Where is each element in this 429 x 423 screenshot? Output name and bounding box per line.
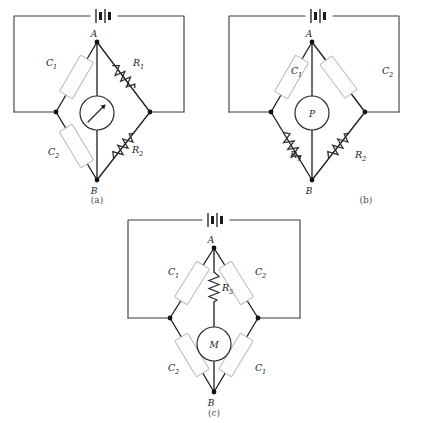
svg-text:2: 2 bbox=[388, 71, 393, 79]
panel-c-node-a-label: A bbox=[207, 235, 215, 245]
panel-a-capacitor-upper-left bbox=[60, 55, 94, 99]
panel-c-label-lower-left: C 2 bbox=[168, 362, 179, 376]
panel-c-bridge-wires bbox=[128, 248, 300, 392]
svg-text:5: 5 bbox=[229, 288, 233, 296]
svg-text:R: R bbox=[131, 144, 139, 155]
panel-a-battery bbox=[96, 9, 110, 23]
panel-b-meter-label: P bbox=[308, 109, 316, 119]
panel-c-label-lower-right: C 1 bbox=[255, 362, 266, 376]
panel-a-node-a-label: A bbox=[90, 29, 98, 39]
panel-c-battery bbox=[208, 213, 222, 227]
panel-c-label-upper-right: C 2 bbox=[255, 266, 266, 280]
panel-a-capacitor-lower-left bbox=[59, 124, 93, 168]
svg-text:1: 1 bbox=[53, 63, 57, 71]
svg-text:1: 1 bbox=[262, 368, 266, 376]
svg-text:2: 2 bbox=[261, 272, 266, 280]
panel-b-label-c2: C 2 bbox=[382, 65, 393, 79]
figure-root: A B C 1 C 2 R 1 R 2 (a) bbox=[0, 0, 429, 423]
circuit-figure: A B C 1 C 2 R 1 R 2 (a) bbox=[0, 0, 429, 423]
panel-b-battery bbox=[311, 9, 325, 23]
svg-text:1: 1 bbox=[140, 63, 144, 71]
panel-b-node-a-label: A bbox=[305, 29, 313, 39]
panel-b-capacitor-upper-right bbox=[320, 56, 357, 99]
svg-text:2: 2 bbox=[138, 150, 143, 158]
panel-c-meter-label: M bbox=[208, 340, 219, 350]
svg-text:2: 2 bbox=[361, 155, 366, 163]
panel-c-label-upper-left: C 1 bbox=[168, 266, 179, 280]
svg-text:R: R bbox=[354, 149, 362, 160]
panel-c-node-b-label: B bbox=[207, 398, 215, 408]
panel-c-capacitor-upper-left bbox=[175, 261, 210, 305]
panel-a-label-c2: C 2 bbox=[48, 146, 59, 160]
panel-b: P A B C 1 C 2 R 1 R 2 (b) bbox=[229, 9, 399, 205]
panel-b-capacitor-upper-left bbox=[275, 55, 309, 99]
panel-a-galvanometer bbox=[80, 96, 114, 130]
panel-a-label-r1: R 1 bbox=[132, 57, 144, 71]
svg-text:2: 2 bbox=[54, 152, 59, 160]
panel-a-label-r2: R 2 bbox=[131, 144, 143, 158]
svg-text:1: 1 bbox=[298, 71, 302, 79]
svg-text:1: 1 bbox=[297, 155, 301, 163]
svg-text:R: R bbox=[289, 149, 297, 160]
svg-text:1: 1 bbox=[175, 272, 179, 280]
panel-a-label-c1: C 1 bbox=[46, 57, 57, 71]
panel-a-caption: (a) bbox=[91, 195, 103, 205]
svg-text:R: R bbox=[221, 282, 229, 293]
panel-b-node-b-label: B bbox=[305, 186, 313, 196]
panel-c-resistor-center bbox=[209, 272, 219, 302]
panel-a: A B C 1 C 2 R 1 R 2 (a) bbox=[14, 9, 184, 205]
panel-b-meter: P bbox=[295, 96, 329, 130]
svg-text:R: R bbox=[132, 57, 140, 68]
panel-b-label-r2: R 2 bbox=[354, 149, 366, 163]
panel-c-caption: (c) bbox=[208, 408, 220, 418]
panel-c: M A B C 1 C 2 C 2 C 1 R 5 (c) bbox=[128, 213, 300, 418]
svg-text:2: 2 bbox=[174, 368, 179, 376]
panel-c-meter: M bbox=[197, 327, 231, 361]
panel-b-label-r1: R 1 bbox=[289, 149, 301, 163]
panel-b-caption: (b) bbox=[360, 195, 373, 205]
